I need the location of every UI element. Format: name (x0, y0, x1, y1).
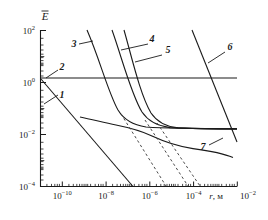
curve-label-3: 3 (71, 38, 77, 49)
figure-chart: 1 2 3 4 5 6 7 102 100 10−2 10−4 10−10 10… (0, 0, 268, 220)
chart-svg: 1 2 3 4 5 6 7 102 100 10−2 10−4 10−10 10… (0, 0, 268, 220)
curve-label-4: 4 (149, 33, 155, 44)
x-axis-title: r, м (209, 191, 223, 201)
y-axis-title-text: E (41, 10, 49, 22)
curve-label-5: 5 (166, 44, 171, 55)
curve-label-6: 6 (228, 41, 233, 52)
curve-label-2: 2 (59, 61, 65, 72)
y-axis-title: E (41, 10, 49, 22)
curve-label-1: 1 (60, 89, 65, 100)
